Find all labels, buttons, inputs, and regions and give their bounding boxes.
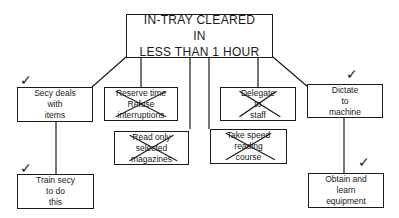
node-secy-deals: Secy deals with items — [17, 87, 93, 122]
check-mark-icon: ✓ — [358, 154, 370, 170]
cross-out-icon — [221, 88, 295, 120]
node-reserve-time: Reserve time Refuse interruptions — [104, 87, 178, 121]
node-obtain-equipment: Obtain and learn equipment — [308, 173, 384, 208]
check-mark-icon: ✓ — [346, 66, 358, 82]
root-goal-label: IN-TRAY CLEARED IN LESS THAN 1 HOUR — [140, 12, 260, 60]
node-speed-reading: Take speed reading course — [210, 129, 287, 164]
node-delegate: Delegate to staff — [220, 87, 296, 121]
node-read-only: Read only selected magazines — [114, 131, 189, 165]
check-mark-icon: ✓ — [20, 72, 32, 88]
cross-out-icon — [105, 88, 177, 120]
node-train-secy: Train secy to do this — [17, 174, 94, 209]
root-goal-box: IN-TRAY CLEARED IN LESS THAN 1 HOUR — [126, 14, 273, 58]
node-dictate: Dictate to machine — [307, 84, 383, 118]
cross-out-icon — [115, 132, 188, 164]
cross-out-icon — [211, 130, 286, 163]
